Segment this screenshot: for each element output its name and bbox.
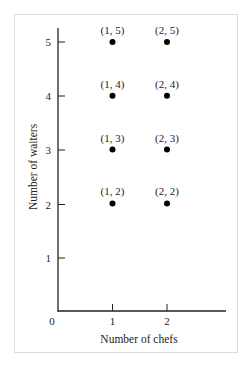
y-tick-label: 5: [46, 36, 52, 48]
point-label: (2, 2): [155, 185, 179, 198]
y-axis-label: Number of waiters: [27, 123, 39, 210]
data-point: [164, 93, 170, 99]
data-points: (1, 5)(2, 5)(1, 4)(2, 4)(1, 3)(2, 3)(1, …: [101, 24, 180, 206]
point-label: (1, 4): [101, 78, 125, 91]
x-tick-label: 1: [110, 315, 116, 327]
point-label: (2, 5): [155, 24, 179, 37]
point-label: (1, 2): [101, 185, 125, 198]
data-point: [164, 200, 170, 206]
point-label: (1, 3): [101, 132, 125, 145]
y-tick-label: 2: [46, 199, 52, 211]
data-point: [110, 93, 116, 99]
y-tick-label: 1: [46, 252, 52, 264]
data-point: [110, 147, 116, 153]
x-tick-label: 0: [49, 315, 55, 327]
y-ticks: 5 4 3 2 1: [46, 36, 66, 264]
x-ticks: 0 1 2: [49, 304, 170, 327]
data-point: [164, 147, 170, 153]
point-label: (2, 3): [155, 132, 179, 145]
y-tick-label: 4: [46, 90, 52, 102]
data-point: [110, 200, 116, 206]
point-label: (2, 4): [155, 78, 179, 91]
data-point: [164, 39, 170, 45]
x-tick-label: 2: [164, 315, 170, 327]
point-label: (1, 5): [101, 24, 125, 37]
y-tick-label: 3: [46, 144, 52, 156]
data-point: [110, 39, 116, 45]
x-axis-label: Number of chefs: [100, 333, 178, 345]
scatter-chart: 5 4 3 2 1 0 1 2 Number of chefs Number o…: [0, 0, 252, 365]
